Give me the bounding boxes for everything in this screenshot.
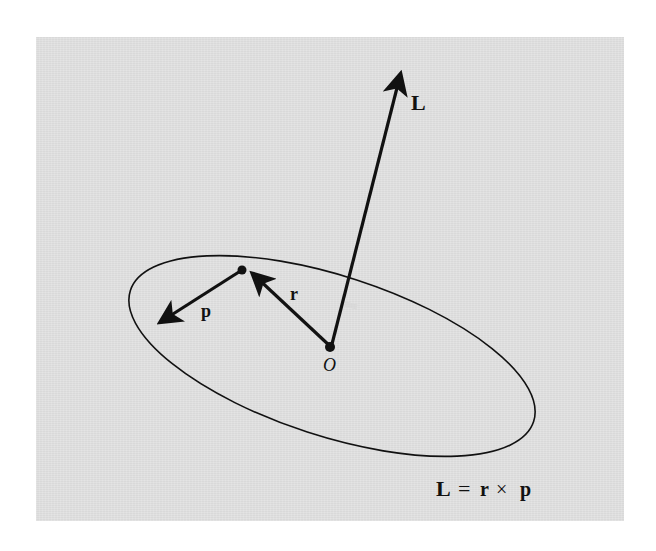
origin-point xyxy=(325,342,335,352)
label-r: r xyxy=(290,284,298,304)
label-L: L xyxy=(411,90,426,115)
label-p: p xyxy=(201,301,211,321)
equation-L: L xyxy=(436,476,451,501)
equation-r: r xyxy=(480,478,489,500)
vector-L xyxy=(331,76,400,348)
equation-p: p xyxy=(520,478,531,501)
particle-point xyxy=(238,266,247,275)
angular-momentum-diagram: L r p O L = r × p xyxy=(0,0,656,551)
equation: L = r × p xyxy=(436,476,531,501)
equation-times: × xyxy=(496,478,507,500)
equation-equals: = xyxy=(458,476,470,501)
label-O: O xyxy=(323,355,336,375)
